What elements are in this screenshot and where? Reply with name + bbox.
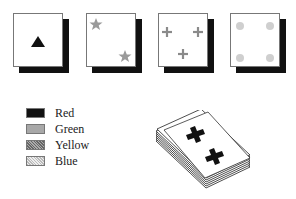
cross-icon bbox=[158, 13, 208, 67]
response-card-deck bbox=[150, 110, 260, 199]
legend-item-blue: Blue bbox=[26, 153, 89, 169]
legend-label: Yellow bbox=[55, 138, 89, 153]
stimulus-card-circles bbox=[230, 13, 280, 67]
swatch-green bbox=[26, 124, 45, 134]
legend-label: Red bbox=[55, 106, 74, 121]
stimulus-card-triangle bbox=[13, 13, 63, 67]
swatch-yellow bbox=[26, 140, 45, 150]
star-icon bbox=[86, 13, 136, 67]
legend-item-red: Red bbox=[26, 105, 89, 121]
color-legend: Red Green Yellow Blue bbox=[26, 105, 89, 169]
legend-label: Blue bbox=[55, 154, 78, 169]
swatch-blue bbox=[26, 156, 45, 166]
stimulus-card-stars bbox=[86, 13, 136, 67]
legend-item-yellow: Yellow bbox=[26, 137, 89, 153]
legend-label: Green bbox=[55, 122, 84, 137]
triangle-icon bbox=[13, 13, 63, 67]
stimulus-card-crosses bbox=[158, 13, 208, 67]
swatch-red bbox=[26, 108, 45, 118]
legend-item-green: Green bbox=[26, 121, 89, 137]
circle-icon bbox=[230, 13, 280, 67]
